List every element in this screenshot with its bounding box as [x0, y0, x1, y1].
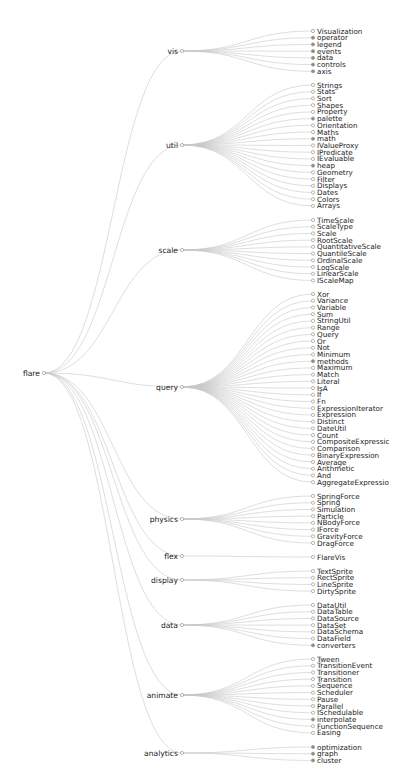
- leaf-node-icon[interactable]: [180, 554, 183, 557]
- collapsed-node-icon[interactable]: [311, 63, 314, 66]
- leaf-node-icon[interactable]: [311, 528, 314, 531]
- leaf-node-icon[interactable]: [311, 434, 314, 437]
- leaf-node-icon[interactable]: [311, 691, 314, 694]
- leaf-node-icon[interactable]: [311, 440, 314, 443]
- leaf-node-icon[interactable]: [311, 494, 314, 497]
- leaf-node-icon[interactable]: [311, 393, 314, 396]
- collapsed-node-icon[interactable]: [311, 745, 314, 748]
- leaf-node-icon[interactable]: [311, 664, 314, 667]
- leaf-node-icon[interactable]: [311, 515, 314, 518]
- leaf-node-icon[interactable]: [311, 326, 314, 329]
- leaf-node-icon[interactable]: [311, 292, 314, 295]
- leaf-node-icon[interactable]: [311, 657, 314, 660]
- leaf-node-icon[interactable]: [311, 171, 314, 174]
- leaf-node-icon[interactable]: [311, 521, 314, 524]
- leaf-node-icon[interactable]: [311, 725, 314, 728]
- leaf-node-icon[interactable]: [311, 460, 314, 463]
- collapsed-node-icon[interactable]: [311, 36, 314, 39]
- leaf-node-icon[interactable]: [311, 386, 314, 389]
- leaf-node-icon[interactable]: [311, 420, 314, 423]
- leaf-node-icon[interactable]: [311, 177, 314, 180]
- leaf-node-icon[interactable]: [311, 306, 314, 309]
- leaf-node-icon[interactable]: [311, 97, 314, 100]
- leaf-node-icon[interactable]: [311, 603, 314, 606]
- leaf-node-icon[interactable]: [311, 413, 314, 416]
- leaf-node-icon[interactable]: [311, 698, 314, 701]
- leaf-node-icon[interactable]: [311, 198, 314, 201]
- leaf-node-icon[interactable]: [311, 130, 314, 133]
- leaf-node-icon[interactable]: [311, 265, 314, 268]
- leaf-node-icon[interactable]: [180, 248, 183, 251]
- leaf-node-icon[interactable]: [311, 467, 314, 470]
- leaf-node-icon[interactable]: [311, 104, 314, 107]
- leaf-node-icon[interactable]: [311, 272, 314, 275]
- leaf-node-icon[interactable]: [311, 501, 314, 504]
- leaf-node-icon[interactable]: [311, 380, 314, 383]
- collapsed-node-icon[interactable]: [311, 644, 314, 647]
- leaf-node-icon[interactable]: [311, 671, 314, 674]
- collapsed-node-icon[interactable]: [311, 164, 314, 167]
- collapsed-node-icon[interactable]: [311, 70, 314, 73]
- leaf-node-icon[interactable]: [311, 711, 314, 714]
- leaf-node-icon[interactable]: [311, 474, 314, 477]
- leaf-node-icon[interactable]: [180, 751, 183, 754]
- leaf-node-icon[interactable]: [311, 569, 314, 572]
- leaf-node-icon[interactable]: [311, 366, 314, 369]
- leaf-node-icon[interactable]: [311, 259, 314, 262]
- leaf-node-icon[interactable]: [311, 232, 314, 235]
- leaf-node-icon[interactable]: [311, 151, 314, 154]
- leaf-node-icon[interactable]: [311, 454, 314, 457]
- leaf-node-icon[interactable]: [311, 555, 314, 558]
- leaf-node-icon[interactable]: [311, 400, 314, 403]
- leaf-node-icon[interactable]: [180, 693, 183, 696]
- leaf-node-icon[interactable]: [311, 576, 314, 579]
- leaf-node-icon[interactable]: [311, 541, 314, 544]
- leaf-node-icon[interactable]: [311, 245, 314, 248]
- leaf-node-icon[interactable]: [311, 339, 314, 342]
- collapsed-node-icon[interactable]: [311, 718, 314, 721]
- leaf-node-icon[interactable]: [42, 371, 45, 374]
- leaf-node-icon[interactable]: [311, 157, 314, 160]
- leaf-node-icon[interactable]: [311, 279, 314, 282]
- leaf-node-icon[interactable]: [311, 731, 314, 734]
- collapsed-node-icon[interactable]: [311, 117, 314, 120]
- collapsed-node-icon[interactable]: [311, 56, 314, 59]
- collapsed-node-icon[interactable]: [311, 360, 314, 363]
- leaf-node-icon[interactable]: [311, 481, 314, 484]
- leaf-node-icon[interactable]: [311, 704, 314, 707]
- leaf-node-icon[interactable]: [180, 623, 183, 626]
- leaf-node-icon[interactable]: [311, 353, 314, 356]
- leaf-node-icon[interactable]: [311, 630, 314, 633]
- leaf-node-icon[interactable]: [311, 678, 314, 681]
- leaf-node-icon[interactable]: [311, 299, 314, 302]
- leaf-node-icon[interactable]: [311, 124, 314, 127]
- leaf-node-icon[interactable]: [180, 385, 183, 388]
- leaf-node-icon[interactable]: [311, 252, 314, 255]
- leaf-node-icon[interactable]: [311, 624, 314, 627]
- leaf-node-icon[interactable]: [311, 346, 314, 349]
- leaf-node-icon[interactable]: [311, 191, 314, 194]
- leaf-node-icon[interactable]: [311, 319, 314, 322]
- leaf-node-icon[interactable]: [311, 407, 314, 410]
- leaf-node-icon[interactable]: [311, 535, 314, 538]
- collapsed-node-icon[interactable]: [311, 50, 314, 53]
- leaf-node-icon[interactable]: [311, 83, 314, 86]
- leaf-node-icon[interactable]: [311, 610, 314, 613]
- leaf-node-icon[interactable]: [311, 225, 314, 228]
- leaf-node-icon[interactable]: [180, 49, 183, 52]
- leaf-node-icon[interactable]: [311, 427, 314, 430]
- leaf-node-icon[interactable]: [311, 204, 314, 207]
- leaf-node-icon[interactable]: [311, 333, 314, 336]
- collapsed-node-icon[interactable]: [311, 759, 314, 762]
- leaf-node-icon[interactable]: [311, 583, 314, 586]
- collapsed-node-icon[interactable]: [311, 752, 314, 755]
- leaf-node-icon[interactable]: [311, 447, 314, 450]
- leaf-node-icon[interactable]: [180, 143, 183, 146]
- leaf-node-icon[interactable]: [311, 373, 314, 376]
- collapsed-node-icon[interactable]: [311, 43, 314, 46]
- leaf-node-icon[interactable]: [311, 684, 314, 687]
- leaf-node-icon[interactable]: [311, 617, 314, 620]
- leaf-node-icon[interactable]: [311, 313, 314, 316]
- leaf-node-icon[interactable]: [180, 578, 183, 581]
- leaf-node-icon[interactable]: [311, 90, 314, 93]
